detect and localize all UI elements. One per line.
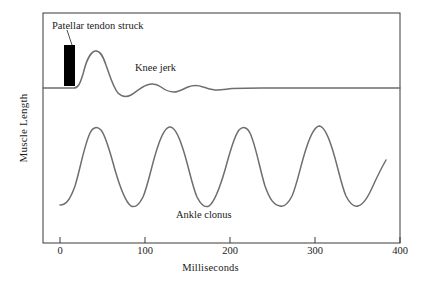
x-tick-label-200: 200 — [215, 245, 245, 256]
stimulus-annotation-label: Patellar tendon struck — [52, 20, 144, 31]
x-tick-label-0: 0 — [45, 245, 75, 256]
x-tick-label-100: 100 — [130, 245, 160, 256]
y-axis-title: Muscle Length — [17, 73, 29, 183]
x-tick-label-300: 300 — [300, 245, 330, 256]
x-axis-title: Milliseconds — [0, 262, 421, 273]
ankle-clonus-label: Ankle clonus — [176, 209, 232, 220]
knee-jerk-label: Knee jerk — [135, 62, 176, 73]
stimulus-bar — [64, 45, 75, 86]
muscle-length-figure: Patellar tendon struck Knee jerk Ankle c… — [0, 0, 421, 289]
x-tick-label-400: 400 — [385, 245, 415, 256]
